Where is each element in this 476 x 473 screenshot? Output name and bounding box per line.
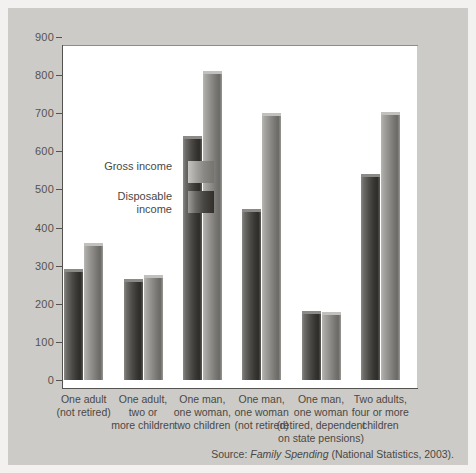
bar-cap (183, 136, 202, 139)
bar-disposable-income (242, 209, 261, 381)
y-axis-tick-label-text: 800 (10, 69, 54, 81)
y-axis-tick-label-text: 400 (10, 222, 54, 234)
source-suffix: (National Statistics, 2003). (329, 448, 454, 460)
y-axis-tick-label: 900 (8, 31, 54, 43)
source-publication: Family Spending (250, 448, 328, 460)
chart-page: 0100200300400500600700800900 One adult(n… (0, 0, 476, 473)
y-axis-tick-label: 600 (8, 145, 54, 157)
bar-cap (322, 312, 341, 315)
bar-cap (302, 311, 321, 314)
bar-disposable-income (361, 174, 380, 380)
y-axis-tick-label: 0 (8, 374, 54, 386)
legend-item-disposable-income: Disposableincome (74, 190, 214, 220)
bar-cap (242, 209, 261, 212)
y-axis-tick (56, 380, 62, 381)
y-axis-tick-label-text: 0 (10, 374, 54, 386)
y-axis-tick-label-text: 700 (10, 107, 54, 119)
source-prefix: Source: (211, 448, 250, 460)
y-axis-tick-label-text: 300 (10, 260, 54, 272)
bar-disposable-income (124, 279, 143, 380)
bar-cap (262, 113, 281, 116)
y-axis-tick (56, 189, 62, 190)
y-axis-line (62, 45, 63, 389)
category-label-line: Two adults, (335, 393, 425, 406)
chart-legend: Gross income Disposableincome (74, 160, 214, 220)
legend-swatch-gross-income (188, 161, 214, 183)
y-axis-tick-label: 100 (8, 336, 54, 348)
y-axis-tick-label: 500 (8, 183, 54, 195)
chart-panel: 0100200300400500600700800900 One adult(n… (8, 8, 468, 465)
bar-cap (64, 269, 83, 272)
bar-disposable-income (64, 269, 83, 380)
legend-label-disposable-income: Disposableincome (76, 190, 172, 216)
category-label-line: on state pensions) (276, 432, 366, 445)
y-axis-tick-label: 200 (8, 298, 54, 310)
y-axis-tick (56, 113, 62, 114)
y-axis-tick (56, 228, 62, 229)
y-axis-tick-label-text: 600 (10, 145, 54, 157)
y-axis-tick-label: 800 (8, 69, 54, 81)
y-axis-tick-label-text: 900 (10, 31, 54, 43)
category-label-line: children (335, 419, 425, 432)
source-note: Source: Family Spending (National Statis… (211, 448, 454, 460)
y-axis-tick (56, 304, 62, 305)
y-axis-tick-label-text: 200 (10, 298, 54, 310)
legend-label-line: income (76, 203, 172, 216)
y-axis-tick-label-text: 500 (10, 183, 54, 195)
bar-gross-income (262, 113, 281, 380)
bar-cap (203, 71, 222, 74)
legend-item-gross-income: Gross income (74, 160, 214, 190)
y-axis-tick (56, 266, 62, 267)
y-axis-tick (56, 151, 62, 152)
bar-cap (381, 112, 400, 115)
plot-top-rule (62, 45, 418, 46)
bar-disposable-income (302, 311, 321, 380)
y-axis-tick (56, 75, 62, 76)
bar-cap (144, 275, 163, 278)
y-axis-tick-label: 700 (8, 107, 54, 119)
bar-cap (361, 174, 380, 177)
y-axis-tick-label: 400 (8, 222, 54, 234)
bar-cap (84, 243, 103, 246)
legend-label-line: Disposable (76, 190, 172, 203)
legend-swatch-disposable-income (188, 191, 214, 213)
bar-gross-income (84, 243, 103, 380)
bar-gross-income (322, 312, 341, 380)
y-axis-tick-label: 300 (8, 260, 54, 272)
bar-gross-income (381, 112, 400, 380)
legend-label-gross-income: Gross income (76, 160, 172, 173)
y-axis-tick (56, 342, 62, 343)
y-axis-tick (56, 37, 62, 38)
category-label-line: four or more (335, 406, 425, 419)
legend-label-line: Gross income (76, 160, 172, 173)
category-label: Two adults,four or morechildren (335, 393, 425, 432)
bar-cap (124, 279, 143, 282)
bar-gross-income (203, 71, 222, 380)
x-axis-line (62, 388, 418, 389)
bar-gross-income (144, 275, 163, 380)
y-axis-tick-label-text: 100 (10, 336, 54, 348)
